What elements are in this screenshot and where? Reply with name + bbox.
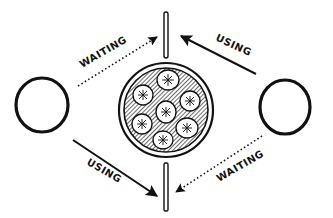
philosopher-right — [260, 80, 310, 134]
label-waiting-bottom: WAITING — [215, 148, 266, 184]
label-using-top: USING — [214, 32, 253, 58]
deadlock-diagram: WAITING USING USING WAITING — [0, 0, 333, 218]
philosopher-left — [16, 78, 68, 132]
chopstick-bottom — [164, 163, 168, 211]
chopstick-top — [164, 12, 168, 58]
label-waiting-top: WAITING — [78, 34, 129, 70]
plate — [119, 63, 213, 157]
